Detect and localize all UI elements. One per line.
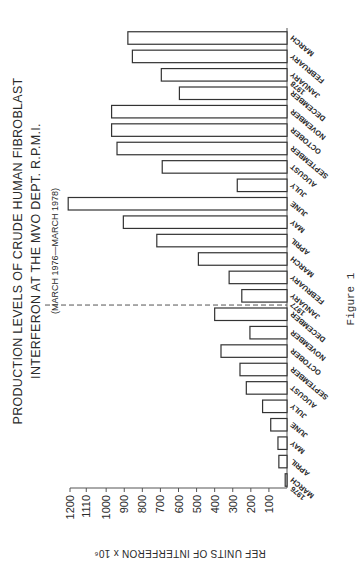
bar-october-19 bbox=[112, 124, 287, 137]
x-tick-label: JUNE bbox=[289, 420, 310, 440]
bar-may-14 bbox=[123, 216, 287, 229]
bar-february-11 bbox=[229, 271, 287, 284]
rotated-chart-stage: PRODUCTION LEVELS OF CRUDE HUMAN FIBROBL… bbox=[0, 0, 362, 581]
bar-december-21 bbox=[179, 87, 287, 100]
interferon-production-bar-chart: PRODUCTION LEVELS OF CRUDE HUMAN FIBROBL… bbox=[0, 0, 362, 581]
bar-june-15 bbox=[68, 198, 287, 211]
bar-july-16 bbox=[237, 179, 287, 192]
x-axis-labels: MARCH1976APRILMAYJUNEJULYAUGUSTSEPTEMBER… bbox=[288, 33, 330, 502]
bar-september-6 bbox=[240, 363, 287, 376]
bar-may-2 bbox=[278, 437, 287, 450]
bar-april-1 bbox=[279, 455, 287, 468]
y-tick-label: 700 bbox=[154, 495, 166, 513]
chart-title-line2: INTERFERON AT THE MVO DEPT. R.P.M.I. bbox=[29, 123, 43, 379]
figure-caption: Figure 1 bbox=[345, 272, 357, 325]
bar-july-4 bbox=[263, 400, 287, 413]
y-tick-label: 1200 bbox=[64, 495, 76, 519]
chart-title: PRODUCTION LEVELS OF CRUDE HUMAN FIBROBL… bbox=[11, 77, 25, 424]
bar-march-24 bbox=[128, 32, 287, 45]
bar-march-12 bbox=[198, 253, 287, 266]
y-tick-label: 1000 bbox=[100, 495, 112, 519]
bar-january-22 bbox=[161, 69, 287, 81]
y-tick-label: 100 bbox=[263, 495, 275, 513]
bar-february-23 bbox=[132, 50, 287, 63]
bar-january-10 bbox=[242, 290, 287, 303]
y-tick-label: 800 bbox=[136, 495, 148, 513]
y-tick-label: 600 bbox=[173, 495, 185, 513]
bar-june-3 bbox=[271, 419, 287, 432]
bar-august-5 bbox=[246, 382, 287, 395]
bar-november-20 bbox=[112, 105, 287, 118]
chart-subtitle: (MARCH 1976—MARCH 1978) bbox=[50, 188, 60, 314]
bar-august-17 bbox=[162, 161, 287, 174]
y-tick-label: 1110 bbox=[80, 495, 92, 518]
y-tick-label: 200 bbox=[245, 495, 257, 513]
y-tick-label: 300 bbox=[227, 495, 239, 513]
y-tick-label: 400 bbox=[209, 495, 221, 513]
x-tick-label: APRIL bbox=[288, 457, 311, 479]
bars-group bbox=[45, 32, 287, 487]
x-tick-label: APRIL bbox=[288, 236, 311, 258]
y-axis-title: REF UNITS OF INTERFERON x 10⁶ bbox=[94, 548, 266, 559]
bar-april-13 bbox=[157, 234, 287, 247]
bar-march-0 bbox=[285, 474, 287, 487]
y-tick-label: 900 bbox=[118, 495, 130, 513]
bar-december-9 bbox=[215, 308, 287, 321]
x-tick-label: JUNE bbox=[289, 199, 310, 219]
bar-october-7 bbox=[221, 345, 287, 358]
y-tick-label: 500 bbox=[191, 495, 203, 513]
bar-november-8 bbox=[250, 326, 287, 339]
bar-september-18 bbox=[117, 142, 287, 155]
